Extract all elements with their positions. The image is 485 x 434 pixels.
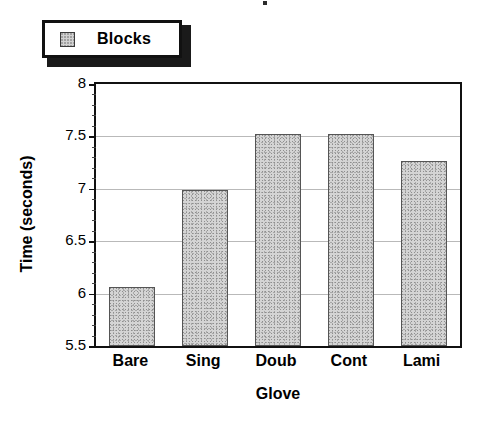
bar-sing (182, 190, 228, 346)
chart-legend: Blocks (42, 20, 182, 58)
y-axis-minor-tick (92, 231, 96, 232)
x-axis-title: Glove (94, 385, 462, 403)
y-axis-tick-label: 8 (78, 74, 86, 91)
legend-label-blocks: Blocks (97, 30, 151, 48)
y-axis-minor-tick (92, 105, 96, 106)
y-axis-minor-tick (92, 168, 96, 169)
bar-chart-figure: Blocks 5.566.577.58 BareSingDoubContLami… (0, 0, 485, 434)
bar-doub (255, 134, 301, 346)
y-axis-minor-tick (92, 220, 96, 221)
scan-artifact (263, 1, 267, 5)
y-axis-minor-tick (92, 115, 96, 116)
plot-area (94, 82, 462, 348)
y-axis-major-tick (89, 294, 96, 296)
y-axis-minor-tick (92, 94, 96, 95)
y-axis-minor-tick (92, 336, 96, 337)
y-axis-major-tick (89, 189, 96, 191)
y-axis-minor-tick (92, 157, 96, 158)
y-axis-major-tick (89, 136, 96, 138)
x-axis-tick-label: Doub (256, 352, 297, 370)
bar-bare (109, 287, 155, 346)
bar-cont (328, 134, 374, 346)
y-axis-tick-label: 6 (78, 283, 86, 300)
legend-swatch-blocks (60, 32, 75, 47)
y-axis-major-tick (89, 241, 96, 243)
y-axis-minor-tick (92, 304, 96, 305)
x-axis-tick-label: Cont (331, 352, 367, 370)
y-axis-minor-tick (92, 315, 96, 316)
x-axis-tick-label: Bare (113, 352, 149, 370)
y-axis-tick-label: 5.5 (65, 336, 86, 353)
y-axis-tick-label: 6.5 (65, 231, 86, 248)
y-axis-minor-tick (92, 178, 96, 179)
y-axis-minor-tick (92, 325, 96, 326)
x-axis-tick-label: Sing (186, 352, 221, 370)
x-axis-tick-label: Lami (403, 352, 440, 370)
y-axis-minor-tick (92, 210, 96, 211)
bar-lami (401, 161, 447, 346)
y-axis-minor-tick (92, 199, 96, 200)
x-axis-tick-labels: BareSingDoubContLami (94, 352, 462, 376)
y-axis-minor-tick (92, 252, 96, 253)
y-axis-minor-tick (92, 126, 96, 127)
y-axis-tick-label: 7.5 (65, 126, 86, 143)
y-axis-minor-tick (92, 283, 96, 284)
y-axis-major-tick (89, 84, 96, 86)
y-axis-tick-labels: 5.566.577.58 (0, 82, 86, 348)
y-axis-minor-tick (92, 147, 96, 148)
y-axis-tick-label: 7 (78, 178, 86, 195)
y-axis-minor-tick (92, 273, 96, 274)
y-axis-title: Time (seconds) (18, 124, 36, 304)
y-axis-minor-tick (92, 262, 96, 263)
y-axis-major-tick (89, 346, 96, 348)
